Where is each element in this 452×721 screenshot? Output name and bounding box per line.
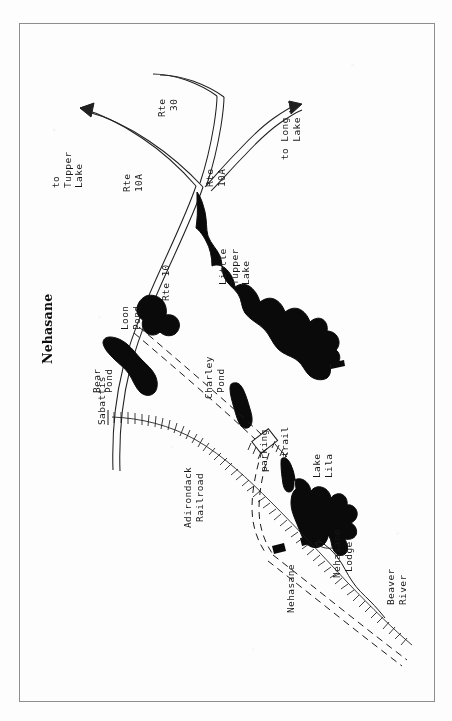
page-title: Nehasane bbox=[40, 294, 55, 364]
building-nehasane-station bbox=[272, 543, 286, 554]
arrow-to-tupper-lake bbox=[80, 103, 94, 117]
water-loon-pond bbox=[137, 295, 180, 336]
label-rte-30: Rte 30 bbox=[156, 99, 179, 117]
map-graphics bbox=[0, 0, 452, 721]
label-lake-lila: Lake Lila bbox=[311, 454, 334, 478]
label-nehasane-lodge: Nehasane Lodge bbox=[331, 529, 354, 578]
label-loon-pond: Loon Pond bbox=[119, 306, 142, 330]
label-beaver-river: Beaver River bbox=[385, 568, 408, 605]
map-root: Nehasane to Tupper Lake to Long Lake Rte… bbox=[0, 0, 452, 721]
label-charley-pond: Charley Pond bbox=[203, 356, 226, 399]
label-to-tupper-lake: to Tupper Lake bbox=[50, 151, 85, 188]
arrow-to-long-lake bbox=[288, 101, 302, 114]
label-rte-10: Rte 10 bbox=[160, 264, 171, 301]
label-rte-10a-north: Rte 10A bbox=[121, 174, 144, 192]
water-little-tupper-lake bbox=[196, 192, 340, 380]
water-charley-pond bbox=[230, 383, 252, 428]
label-sabattis: Sabattis bbox=[96, 376, 107, 425]
label-nehasane-station: Nehasane bbox=[285, 564, 296, 613]
label-adirondack-railroad: Adirondack Railroad bbox=[182, 467, 205, 528]
water-lake-lila-north-arm bbox=[281, 458, 294, 492]
highway-rte-30 bbox=[153, 74, 224, 184]
label-little-tupper-lake: Little Tupper Lake bbox=[217, 248, 252, 285]
label-to-long-lake: to Long Lake bbox=[279, 117, 302, 160]
label-parking: parking bbox=[258, 429, 269, 472]
label-rte-10a-east: Rte 10A bbox=[204, 169, 227, 187]
label-trail: trail bbox=[279, 426, 290, 457]
